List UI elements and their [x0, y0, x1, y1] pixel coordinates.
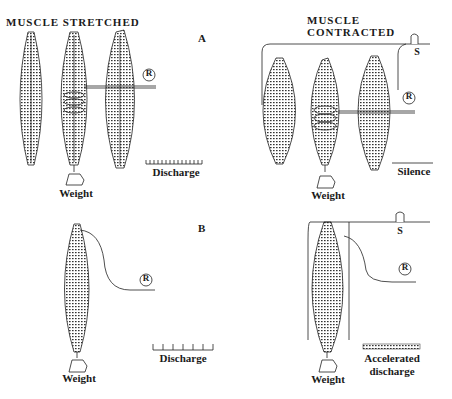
muscle-a-right: [106, 30, 135, 168]
accelerated-label-line2: discharge: [356, 365, 428, 377]
title-muscle-stretched: MUSCLE STRETCHED: [6, 16, 140, 28]
accelerated-discharge-trace: [363, 344, 420, 349]
diagram-drawing: [0, 0, 452, 399]
muscle-a-contracted-middle: [311, 58, 339, 188]
muscle-a-left: [20, 32, 42, 165]
recorder-icon-a-left: R: [144, 68, 154, 78]
recorder-icon-a-right: R: [404, 91, 414, 101]
discharge-trace-a-left: [146, 160, 202, 164]
panel-label-b: B: [198, 222, 205, 234]
silence-label: Silence: [392, 165, 436, 177]
switch-label-a: S: [412, 46, 422, 57]
muscle-a-contracted-left: [263, 58, 296, 164]
weight-label-a-left: Weight: [54, 187, 98, 199]
accelerated-label-line1: Accelerated: [356, 352, 428, 364]
panel-label-a: A: [198, 32, 206, 44]
weight-label-a-right: Weight: [306, 189, 350, 201]
switch-label-b: S: [395, 225, 405, 236]
weight-label-b-right: Weight: [306, 373, 350, 385]
recorder-icon-b-left: R: [141, 273, 151, 283]
recorder-icon-b-right: R: [400, 262, 410, 272]
discharge-label-a: Discharge: [148, 166, 204, 178]
muscle-a-middle: [61, 32, 87, 185]
title-muscle-contracted: MUSCLE CONTRACTED: [307, 14, 452, 38]
muscle-b-left: [65, 224, 156, 372]
discharge-trace-b-left: [153, 344, 213, 350]
weight-label-b-left: Weight: [57, 372, 101, 384]
discharge-label-b: Discharge: [155, 352, 211, 364]
